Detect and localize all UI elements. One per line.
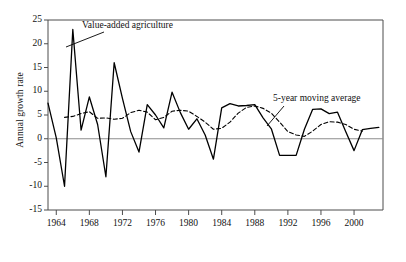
y-tick-label: 10 xyxy=(8,85,42,95)
series-label-value-added-agriculture: Value-added agriculture xyxy=(82,20,173,30)
y-tick-label: -10 xyxy=(8,180,42,190)
plot-frame xyxy=(48,20,383,210)
y-tick-label: 5 xyxy=(8,109,42,119)
x-tick-label: 2000 xyxy=(332,218,376,228)
y-tick-label: -15 xyxy=(8,204,42,214)
y-tick-label: 15 xyxy=(8,62,42,72)
series-label-moving-average: 5-year moving average xyxy=(273,93,361,103)
series-line-value-added-agriculture xyxy=(48,30,379,187)
y-tick-label: 20 xyxy=(8,38,42,48)
y-tick-label: 25 xyxy=(8,14,42,24)
y-tick-label: 0 xyxy=(8,133,42,143)
y-tick-label: -5 xyxy=(8,157,42,167)
chart-figure: Annual growth rate 2520151050-5-10-15 19… xyxy=(0,0,406,262)
leader-line-moving-average xyxy=(267,106,284,126)
